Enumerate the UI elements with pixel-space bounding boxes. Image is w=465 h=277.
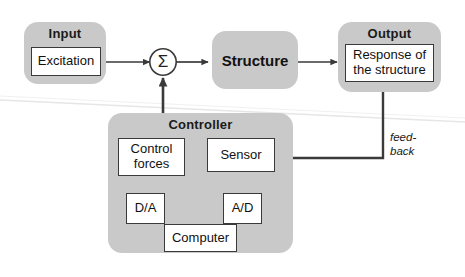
control-diagram: Input Excitation Structure Output Respon… [0,0,465,277]
node-control-forces-label-line2: forces [134,157,169,172]
node-response-label-line1: Response of [353,48,426,63]
node-computer: Computer [164,224,237,252]
node-ad-label: A/D [232,201,254,216]
node-structure: Structure [212,52,298,69]
node-sensor-label: Sensor [220,148,261,163]
group-controller-title: Controller [108,117,293,132]
group-input-title: Input [24,26,106,41]
node-ad: A/D [223,193,262,224]
feedback-label: feed- back [390,130,436,158]
node-response-label-line2: the structure [353,63,425,78]
node-sensor: Sensor [207,138,275,172]
node-control-forces-label-line1: Control [131,142,173,157]
group-output-title: Output [338,26,441,41]
node-response: Response of the structure [345,44,434,82]
node-da: D/A [126,193,165,224]
summation-sigma-icon: Σ [150,49,176,75]
node-control-forces: Control forces [118,138,185,176]
node-da-label: D/A [135,201,157,216]
node-excitation: Excitation [31,47,101,76]
node-computer-label: Computer [172,231,229,246]
node-excitation-label: Excitation [38,54,94,69]
